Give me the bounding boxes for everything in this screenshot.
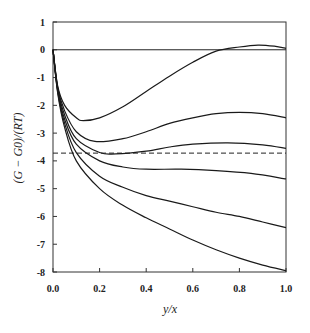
tick-labels: 10-1-2-3-4-5-6-7-80.00.20.40.60.81.0 — [37, 17, 293, 295]
y-tick-label: -6 — [37, 211, 45, 222]
chart: 10-1-2-3-4-5-6-7-80.00.20.40.60.81.0 y/x… — [0, 0, 310, 333]
x-tick-label: 1.0 — [280, 283, 293, 294]
y-tick-label: 1 — [40, 17, 45, 28]
y-tick-label: 0 — [40, 44, 45, 55]
y-tick-label: -7 — [37, 239, 45, 250]
y-axis-label: (G − G0)/(RT) — [11, 113, 25, 184]
y-tick-label: -1 — [37, 72, 45, 83]
x-tick-label: 0.8 — [233, 283, 246, 294]
series-curve4 — [53, 50, 286, 179]
x-tick-label: 0.0 — [47, 283, 60, 294]
y-tick-label: -8 — [37, 267, 45, 278]
data-curves — [53, 45, 286, 271]
y-tick-label: -2 — [37, 100, 45, 111]
series-curve2 — [53, 50, 286, 142]
x-tick-label: 0.2 — [93, 283, 106, 294]
x-tick-label: 0.4 — [140, 283, 153, 294]
y-tick-label: -4 — [37, 155, 45, 166]
series-curve1 — [53, 45, 286, 121]
series-curve3 — [53, 50, 286, 155]
series-curve6 — [53, 50, 286, 271]
y-tick-label: -3 — [37, 128, 45, 139]
x-tick-label: 0.6 — [187, 283, 200, 294]
x-axis-label: y/x — [162, 302, 178, 316]
y-tick-label: -5 — [37, 183, 45, 194]
